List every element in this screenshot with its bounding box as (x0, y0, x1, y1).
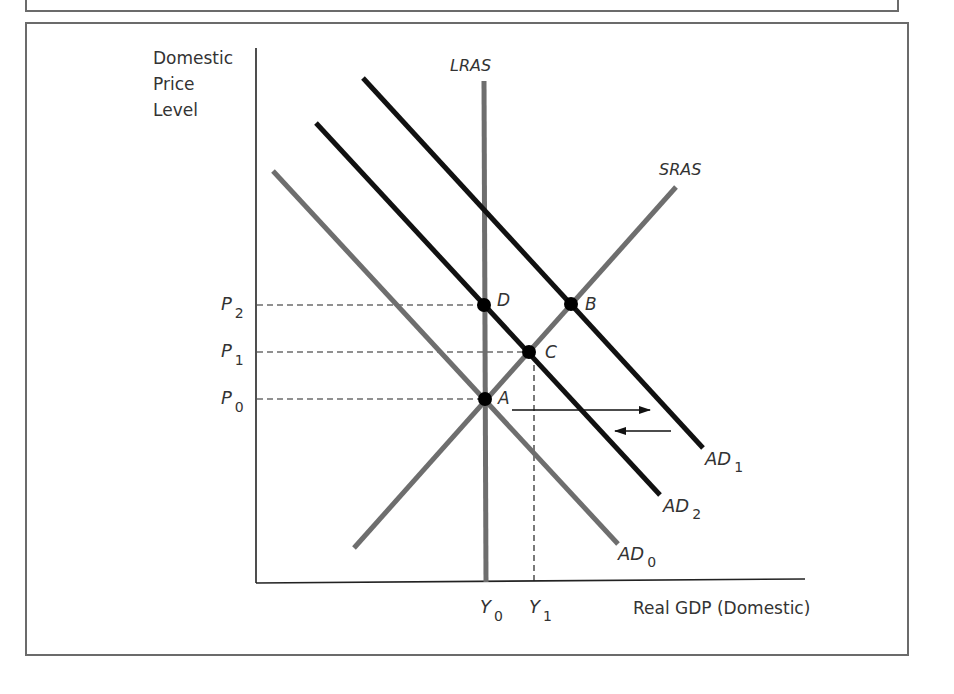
point-a-label: A (497, 388, 510, 408)
ad1-curve (363, 78, 703, 448)
ad-as-diagram: Domestic Price Level Real GDP (Domestic)… (0, 0, 954, 694)
output-tick-y0: Y0 (480, 596, 503, 624)
point-b-dot (564, 297, 578, 311)
point-c-label: C (545, 342, 557, 362)
sras-label: SRAS (659, 160, 701, 179)
dashed-guides (257, 305, 534, 581)
ad0-label: AD0 (617, 543, 656, 570)
price-tick-p1: P1 (221, 340, 244, 368)
lras-curve (484, 81, 486, 582)
point-b-label: B (585, 294, 597, 314)
ad0-curve (273, 171, 618, 544)
point-d-label: D (497, 290, 510, 310)
ad2-label: AD2 (662, 495, 701, 522)
price-tick-p0: P0 (221, 387, 244, 415)
lras-label: LRAS (450, 56, 491, 75)
point-c-dot (522, 345, 536, 359)
output-tick-y1: Y1 (529, 596, 552, 624)
point-a-dot (478, 392, 492, 406)
price-tick-p2: P2 (221, 293, 244, 321)
ad1-label: AD1 (704, 448, 743, 475)
x-axis-label: Real GDP (Domestic) (633, 598, 810, 618)
point-d-dot (477, 298, 491, 312)
y-axis-label: Domestic Price Level (153, 48, 239, 120)
x-axis (256, 579, 805, 583)
